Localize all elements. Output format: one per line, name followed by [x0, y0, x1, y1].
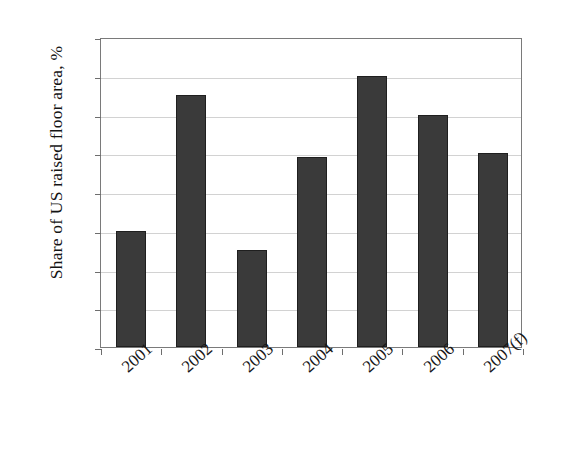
bar — [176, 95, 206, 347]
y-axis-tick — [95, 310, 101, 311]
y-axis-tick — [95, 194, 101, 195]
gridline — [101, 155, 521, 156]
y-axis-tick — [95, 117, 101, 118]
plot-area — [100, 38, 522, 348]
gridline — [101, 117, 521, 118]
bar — [297, 157, 327, 347]
bar — [237, 250, 267, 347]
y-axis-tick — [95, 39, 101, 40]
y-axis-tick — [95, 233, 101, 234]
gridline — [101, 78, 521, 79]
x-axis-tick-labels: 2001200220032004200520062007(f) — [100, 348, 522, 448]
bar — [116, 231, 146, 347]
bar — [357, 76, 387, 347]
y-axis-tick — [95, 78, 101, 79]
y-axis-tick — [95, 155, 101, 156]
y-axis-title: Share of US raised floor area, % — [46, 3, 67, 323]
bar-chart-figure: Share of US raised floor area, % 3839404… — [0, 0, 584, 450]
bar — [478, 153, 508, 347]
bar — [418, 115, 448, 348]
y-axis-tick — [95, 272, 101, 273]
